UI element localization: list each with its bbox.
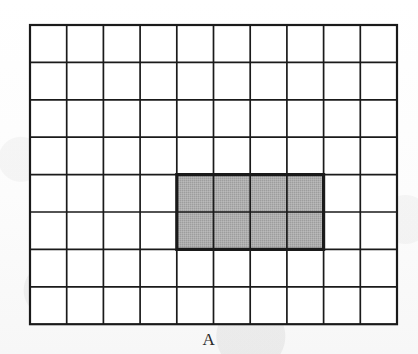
grid-figure: A — [0, 0, 418, 354]
grid-diagram — [0, 0, 418, 354]
figure-caption: A — [0, 330, 418, 350]
